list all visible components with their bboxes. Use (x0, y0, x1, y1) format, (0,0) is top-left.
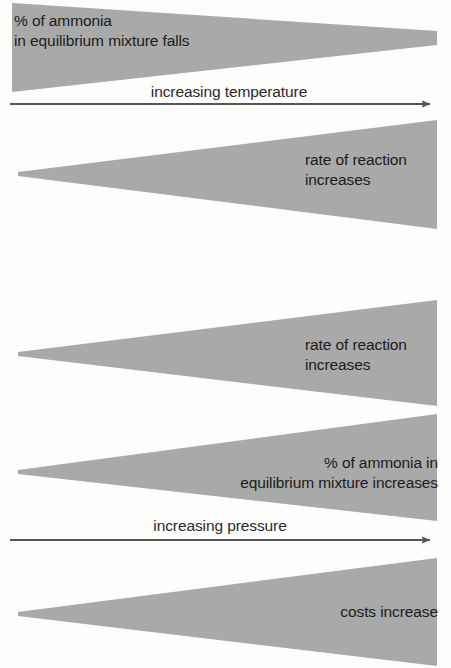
label-line-2: equilibrium mixture increases (240, 474, 438, 491)
label-rate-of-reaction-increases-pressure: rate of reactionincreases (305, 335, 407, 374)
label-line-2: increases (305, 356, 370, 373)
label-line-1: % of ammonia (14, 12, 112, 29)
label-line-2: increases (305, 171, 370, 188)
label-line-1: % of ammonia in (324, 454, 438, 471)
label-increasing-temperature: increasing temperature (140, 82, 318, 102)
label-costs-increase: costs increase (277, 602, 438, 622)
label-rate-of-reaction-increases-temperature: rate of reactionincreases (305, 150, 407, 189)
haber-process-diagram: % of ammoniain equilibrium mixture falls… (0, 0, 451, 668)
label-ammonia-percent-increases: % of ammonia inequilibrium mixture incre… (158, 453, 438, 492)
label-line-1: rate of reaction (305, 336, 407, 353)
label-ammonia-percent-falls: % of ammoniain equilibrium mixture falls (14, 11, 190, 50)
label-increasing-pressure: increasing pressure (144, 516, 296, 536)
label-line-2: in equilibrium mixture falls (14, 32, 190, 49)
label-line-1: rate of reaction (305, 151, 407, 168)
